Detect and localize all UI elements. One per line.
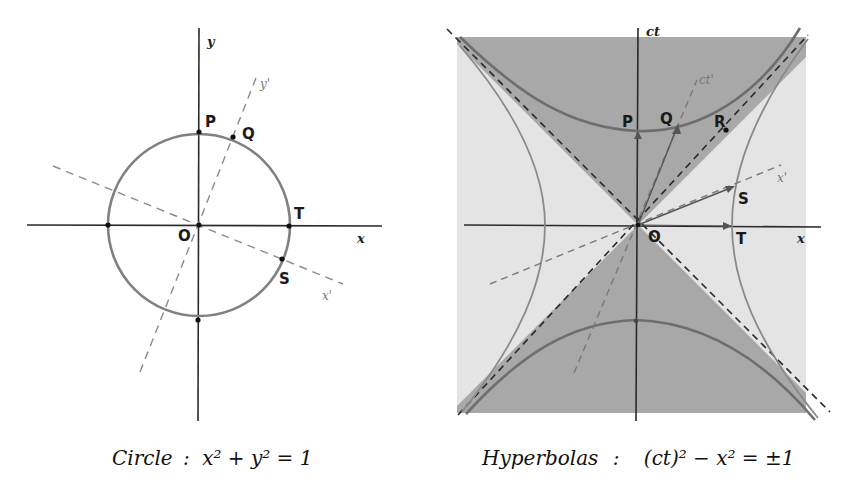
label-R: R	[714, 113, 726, 131]
label-S: S	[738, 190, 749, 208]
point-T	[286, 223, 291, 228]
label-origin: O	[178, 227, 191, 245]
label-T: T	[294, 205, 305, 223]
hyperbola-diagram: ct x ct' x' P Q R S T O Hyperbolas : (ct…	[430, 0, 858, 497]
ct-prime-label: ct'	[699, 73, 714, 87]
point-origin	[636, 223, 640, 227]
y-prime-label: y'	[259, 77, 270, 91]
point-P	[196, 129, 201, 134]
label-P: P	[622, 113, 633, 131]
x-axis-label: x	[796, 231, 805, 246]
y-axis-label: y	[206, 34, 216, 49]
ct-axis-label: ct	[646, 24, 660, 39]
point-S	[279, 256, 284, 261]
point-bottom	[195, 317, 200, 322]
label-P: P	[205, 113, 216, 131]
point-origin	[196, 222, 201, 227]
caption-separator: :	[183, 446, 190, 470]
label-origin: O	[648, 228, 661, 246]
caption-equation: (ct)² − x² = ±1	[644, 446, 795, 470]
point-Q	[230, 134, 235, 139]
x-prime-label: x'	[322, 289, 332, 303]
hyperbola-svg: ct x ct' x' P Q R S T O Hyperbolas : (ct…	[430, 0, 858, 497]
circle-diagram: y x y' x' P Q T S O Circle : x² + y² = 1	[0, 0, 430, 497]
circle-caption: Circle : x² + y² = 1	[112, 446, 312, 470]
label-Q: Q	[242, 125, 255, 143]
point-bottom	[634, 319, 638, 323]
label-Q: Q	[660, 110, 673, 128]
caption-label: Circle	[112, 446, 173, 470]
caption-equation: x² + y² = 1	[202, 446, 312, 470]
x-prime-label: x'	[777, 171, 787, 185]
hyperbola-caption: Hyperbolas : (ct)² − x² = ±1	[481, 446, 794, 470]
x-axis-label: x	[356, 231, 365, 246]
label-T: T	[736, 230, 747, 248]
circle-svg: y x y' x' P Q T S O Circle : x² + y² = 1	[0, 0, 430, 497]
caption-separator: :	[613, 446, 620, 470]
x-axis	[27, 225, 382, 226]
point-left	[105, 222, 110, 227]
label-S: S	[279, 270, 290, 288]
caption-label: Hyperbolas	[481, 446, 598, 470]
